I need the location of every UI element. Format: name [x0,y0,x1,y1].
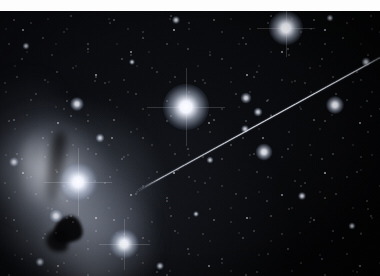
star-star-left-upper [70,97,84,111]
top-matte-border [0,0,380,11]
star-star-lower-right [298,192,306,200]
star-star-lower-left [9,157,19,167]
horsehead-neck [46,230,68,252]
star-star-mid-right [207,157,214,164]
star-star-ne-cluster [241,93,252,104]
star-star-bottom-mid [156,262,164,270]
star-alnitak [163,84,209,130]
star-star-far-right-low [349,223,356,230]
star-star-top-right [327,15,334,22]
star-bright-star-right-mid [326,96,344,114]
star-bright-star-upper-right [269,11,303,45]
star-bright-star-flame-core [58,162,98,202]
star-star-center [193,211,199,217]
star-star-bottom-left [36,258,45,267]
astrophoto-viewport [0,0,380,276]
night-sky-image [0,11,380,276]
star-bright-star-lower-center [109,229,139,259]
star-star-upper-left [23,43,30,50]
star-star-top-center [172,16,180,24]
star-star-center-low [49,209,63,223]
star-star-ne-cluster-b [254,108,263,117]
star-bright-star-sigma-ori [256,144,273,161]
star-star-upper-mid [129,59,135,65]
star-star-mid-left [96,134,105,143]
